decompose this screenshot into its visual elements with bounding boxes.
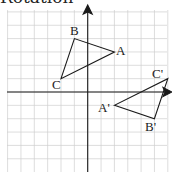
label-a-prime: A' — [98, 100, 110, 115]
label-c-prime: C' — [152, 66, 163, 81]
label-c: C — [52, 77, 61, 92]
coordinate-plane: A B C A' B' C' — [0, 0, 172, 172]
label-b: B — [70, 23, 79, 38]
label-a: A — [116, 43, 126, 58]
label-b-prime: B' — [145, 119, 156, 134]
